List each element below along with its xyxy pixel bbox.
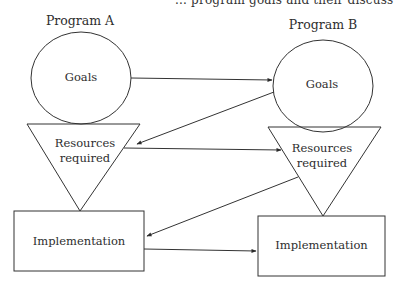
arrow-a-goals-to-b-goals bbox=[131, 78, 272, 80]
program-a-title: Program A bbox=[30, 15, 130, 28]
program-b-goals-label: Goals bbox=[292, 79, 352, 91]
program-a-implementation-label: Implementation bbox=[14, 236, 144, 248]
program-a-goals-label: Goals bbox=[51, 72, 111, 84]
program-a-resources-label-line1: Resources bbox=[40, 138, 130, 150]
arrow-a-implementation-to-b-implementation bbox=[144, 249, 256, 251]
program-b-implementation-label: Implementation bbox=[258, 240, 385, 252]
program-b-resources-label-line2: required bbox=[277, 158, 367, 170]
arrow-b-goals-to-a-resources bbox=[137, 92, 274, 144]
program-b-title: Program B bbox=[273, 19, 373, 32]
program-a-resources-label-line2: required bbox=[40, 153, 130, 165]
arrow-b-resources-to-a-implementation bbox=[147, 177, 298, 236]
program-b-resources-label-line1: Resources bbox=[277, 143, 367, 155]
arrow-a-resources-to-b-resources bbox=[124, 148, 281, 150]
